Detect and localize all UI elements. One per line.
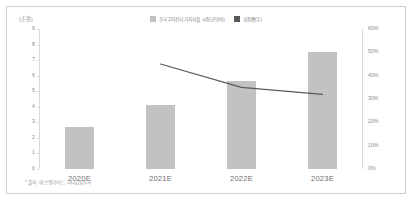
- y-tick-left-1: 1: [32, 151, 35, 156]
- category-label-2021E: 2021E: [149, 174, 172, 183]
- y-tick-left-4: 4: [32, 104, 35, 109]
- y-tick-left-9: 9: [32, 26, 35, 31]
- legend-swatch-bar: [150, 16, 156, 22]
- y-tick-left-7: 7: [32, 58, 35, 63]
- y-tick-right-10: 10%: [368, 143, 378, 148]
- plot-area: 9876543210 60%50%40%30%20%10%0% 2020E202…: [39, 29, 363, 169]
- chart-legend: 한국 2차전지 가치사슬 시장규모(좌) 성장률(우): [7, 15, 405, 22]
- y-tick-left-6: 6: [32, 73, 35, 78]
- legend-label-bar: 한국 2차전지 가치사슬 시장규모(좌): [159, 15, 225, 22]
- y-tick-left-5: 5: [32, 89, 35, 94]
- legend-item-market-size: 한국 2차전지 가치사슬 시장규모(좌): [150, 15, 225, 22]
- y-tick-right-0: 0%: [368, 166, 376, 171]
- y-tick-right-30: 30%: [368, 96, 378, 101]
- y-tick-mark-left: [37, 169, 39, 170]
- growth-rate-polyline: [161, 64, 323, 94]
- y-tick-right-20: 20%: [368, 120, 378, 125]
- y-tick-right-60: 60%: [368, 26, 378, 31]
- chart-container: (조원) 한국 2차전지 가치사슬 시장규모(좌) 성장률(우) 9876543…: [6, 6, 406, 194]
- legend-item-growth-rate: 성장률(우): [234, 15, 262, 22]
- chart-footnote: * 출처: 에프앤가이드, 하나금융투자: [25, 178, 92, 185]
- category-label-2023E: 2023E: [311, 174, 334, 183]
- growth-rate-line-series: [39, 29, 363, 169]
- legend-swatch-line: [234, 16, 240, 22]
- y-tick-left-2: 2: [32, 135, 35, 140]
- y-tick-right-40: 40%: [368, 73, 378, 78]
- y-axis-unit-label: (조원): [19, 15, 33, 22]
- legend-label-line: 성장률(우): [243, 15, 262, 22]
- y-tick-left-3: 3: [32, 120, 35, 125]
- y-tick-left-0: 0: [32, 166, 35, 171]
- category-label-2022E: 2022E: [230, 174, 253, 183]
- y-tick-left-8: 8: [32, 42, 35, 47]
- y-tick-right-50: 50%: [368, 50, 378, 55]
